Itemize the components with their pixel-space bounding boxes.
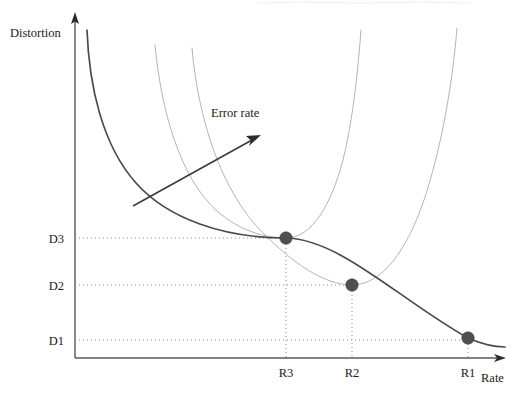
data-point-r1-d1[interactable] [462, 332, 474, 344]
scan-artifact [258, 2, 470, 3]
error-rate-curves-group [155, 28, 457, 285]
rate-distortion-curve [87, 30, 505, 347]
error-rate-annotation-arrow [133, 135, 261, 206]
rate-distortion-curve-group [87, 30, 505, 347]
x-tick-label-r3: R3 [279, 366, 294, 380]
y-tick-label-d3: D3 [49, 232, 64, 246]
error-rate-arrow-head [246, 135, 261, 146]
labels-group: Distortion Rate Error rate D3 D2 D1 R3 R… [10, 26, 504, 385]
x-tick-label-r2: R2 [345, 366, 360, 380]
data-markers-group [280, 232, 474, 344]
data-point-r3-d3[interactable] [280, 232, 292, 244]
y-tick-label-d2: D2 [49, 279, 64, 293]
data-point-r2-d2[interactable] [346, 279, 358, 291]
rate-distortion-figure: Distortion Rate Error rate D3 D2 D1 R3 R… [0, 0, 526, 394]
x-tick-label-r1: R1 [461, 366, 476, 380]
y-tick-label-d1: D1 [49, 334, 64, 348]
error-rate-annotation-label: Error rate [211, 106, 260, 120]
guide-lines-group [75, 238, 470, 357]
y-axis-title: Distortion [10, 26, 61, 40]
error-curve-inner [155, 30, 361, 238]
axis-group [71, 12, 506, 362]
figure-canvas: Distortion Rate Error rate D3 D2 D1 R3 R… [0, 0, 526, 394]
x-axis-title: Rate [481, 371, 504, 385]
error-rate-arrow-shaft [133, 140, 252, 206]
